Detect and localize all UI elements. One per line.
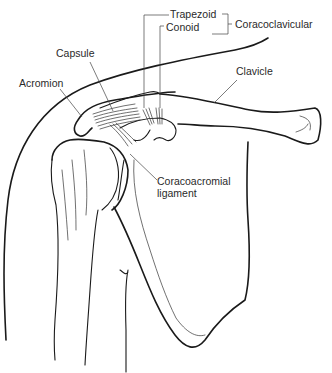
- label-conoid: Conoid: [166, 21, 199, 33]
- humerus-left-edge: [51, 160, 58, 360]
- label-clavicle: Clavicle: [236, 65, 273, 77]
- shoulder-anatomy-diagram: Trapezoid Conoid Coracoclavicular Capsul…: [0, 0, 332, 373]
- label-trapezoid: Trapezoid: [170, 8, 216, 20]
- coracoclavicular-fibers: [143, 108, 162, 125]
- label-coracoclavicular: Coracoclavicular: [235, 18, 313, 30]
- glenoid-rim: [102, 148, 119, 210]
- label-ligament: ligament: [157, 187, 197, 199]
- chest-wall-line: [120, 270, 128, 372]
- humerus-right-edge: [85, 210, 98, 365]
- label-coracoacromial: Coracoacromial: [157, 175, 231, 187]
- scapula-body: [114, 142, 249, 347]
- clavicle-shape: [160, 94, 321, 144]
- clavicle-end-detail: [296, 116, 311, 132]
- acromion-leader: [60, 89, 82, 117]
- label-acromion: Acromion: [19, 77, 63, 89]
- label-capsule: Capsule: [56, 47, 95, 59]
- conoid-bracket: [160, 26, 164, 108]
- capsule-fibers: [93, 104, 140, 146]
- humerus-detail-1: [62, 150, 87, 240]
- humeral-head: [52, 139, 128, 210]
- clavicle-leader: [214, 80, 237, 103]
